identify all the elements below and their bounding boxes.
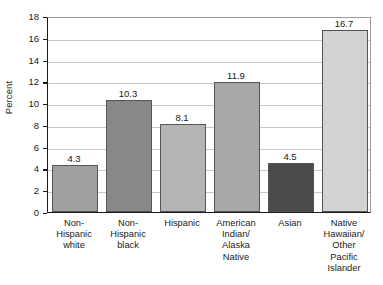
bar-value-label: 11.9 xyxy=(209,71,263,81)
bar xyxy=(268,163,314,212)
y-axis-title: Percent xyxy=(3,68,14,128)
bar-value-label: 4.5 xyxy=(263,152,317,162)
bar-value-label: 10.3 xyxy=(101,89,155,99)
bar-value-label: 4.3 xyxy=(47,154,101,164)
y-axis-tick-label: 10 xyxy=(13,99,39,109)
bar xyxy=(322,30,368,212)
bar xyxy=(160,124,206,212)
y-axis-tick-label: 18 xyxy=(13,12,39,22)
y-axis-tick xyxy=(43,213,47,214)
x-axis-label: Native Hawaiian/ Other Pacific Islander xyxy=(310,218,378,274)
bar xyxy=(106,100,152,212)
y-axis-tick-label: 6 xyxy=(13,143,39,153)
bar xyxy=(214,82,260,212)
plot-area xyxy=(47,17,371,213)
y-axis-tick-label: 0 xyxy=(13,208,39,218)
y-axis-tick-label: 8 xyxy=(13,121,39,131)
bar-chart: Percent 024681012141618 4.310.38.111.94.… xyxy=(0,0,383,285)
bar-value-label: 8.1 xyxy=(155,113,209,123)
bar-value-label: 16.7 xyxy=(317,19,371,29)
bar xyxy=(52,165,98,212)
y-axis-tick-label: 4 xyxy=(13,164,39,174)
y-axis-tick-label: 14 xyxy=(13,56,39,66)
y-axis-tick-label: 16 xyxy=(13,34,39,44)
y-axis-tick-label: 12 xyxy=(13,77,39,87)
y-axis-tick-label: 2 xyxy=(13,186,39,196)
